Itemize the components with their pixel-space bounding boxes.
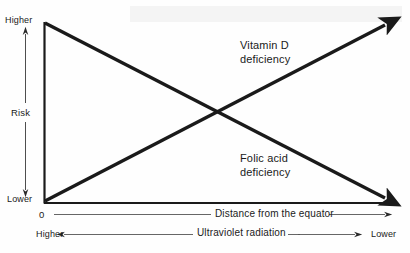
x-axis-origin-label: 0 xyxy=(39,209,44,220)
annotation-vitamin-d-deficiency: Vitamin D deficiency xyxy=(240,39,290,66)
series-line-vitamin-d-deficiency xyxy=(45,25,385,201)
annotation-folic-acid-deficiency: Folic acid deficiency xyxy=(240,152,290,179)
y-axis-title: Risk xyxy=(11,107,30,118)
annotation-folic-acid-line1: Folic acid xyxy=(240,152,290,166)
risk-vs-distance-from-equator-figure: Higher Lower Risk 0 Distance from the eq… xyxy=(0,0,410,253)
x-axis-primary-label: Distance from the equator xyxy=(215,208,334,219)
scan-artifact-band xyxy=(130,6,402,22)
figure-canvas xyxy=(0,0,410,253)
annotation-vitamin-d-line1: Vitamin D xyxy=(240,39,290,53)
x-axis-secondary-left-label: Higher xyxy=(36,229,63,239)
x-axis-secondary-label: Ultraviolet radiation xyxy=(197,227,286,238)
y-axis-higher-label: Higher xyxy=(5,15,32,25)
annotation-vitamin-d-line2: deficiency xyxy=(240,53,290,67)
annotation-folic-acid-line2: deficiency xyxy=(240,166,290,180)
series-line-folic-acid-deficiency xyxy=(45,23,385,198)
x-axis-secondary-right-label: Lower xyxy=(371,229,396,239)
y-axis-lower-label: Lower xyxy=(7,194,32,204)
